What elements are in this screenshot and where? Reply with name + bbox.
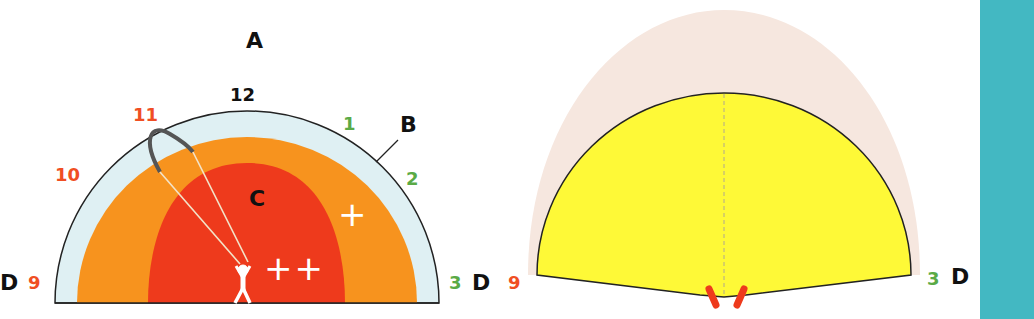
left-wind-window	[55, 111, 439, 303]
label-c: C	[249, 186, 265, 211]
right-clock-9: 9	[508, 272, 521, 293]
clock-3: 3	[449, 272, 462, 293]
label-d-right: D	[472, 270, 490, 295]
label-d-left: D	[0, 270, 18, 295]
teal-side-bar	[980, 0, 1034, 319]
power-mark-strong: ++	[264, 248, 325, 288]
clock-9: 9	[28, 272, 41, 293]
label-a: A	[246, 28, 263, 53]
clock-11: 11	[133, 104, 158, 125]
right-wind-window	[528, 10, 920, 305]
b-pointer-line	[376, 140, 398, 162]
label-b: B	[400, 112, 417, 137]
clock-2: 2	[406, 168, 419, 189]
power-mark-moderate: +	[338, 194, 367, 234]
clock-10: 10	[55, 164, 80, 185]
right-label-d: D	[951, 264, 969, 289]
clock-1: 1	[343, 113, 356, 134]
clock-12: 12	[230, 84, 255, 105]
right-clock-3: 3	[927, 268, 940, 289]
